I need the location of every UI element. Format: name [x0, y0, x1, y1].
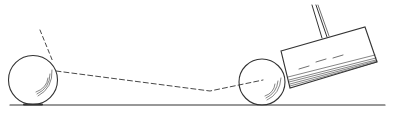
- right-ball: [239, 59, 285, 105]
- mallet: [281, 5, 377, 88]
- collision-diagram: [0, 0, 394, 116]
- mallet-handle: [312, 5, 329, 38]
- left-ball: [9, 56, 58, 105]
- trajectory-line: [56, 71, 263, 91]
